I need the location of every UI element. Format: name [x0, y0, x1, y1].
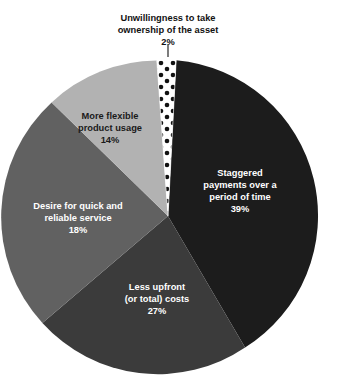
slice-label-line2: (or total) costs [125, 294, 190, 304]
slice-label-line1: More flexible [82, 111, 139, 121]
slice-label-line2: product usage [78, 123, 142, 133]
slice-label-line1: Desire for quick and [33, 201, 123, 211]
pie-chart-svg: Unwillingness to take ownership of the a… [0, 0, 337, 387]
slice-label-value: 14% [101, 135, 120, 145]
callout-label-unwillingness: Unwillingness to take ownership of the a… [118, 13, 219, 47]
slice-label-value: 27% [148, 306, 167, 316]
slice-label-line2: payments over a [203, 180, 277, 190]
slice-label-line1: Staggered [217, 168, 263, 178]
callout-label-value: 2% [161, 37, 175, 47]
callout-label-line1: Unwillingness to take [120, 13, 215, 23]
pie-chart: Unwillingness to take ownership of the a… [0, 0, 337, 387]
slice-label-value: 39% [231, 204, 250, 214]
slice-label-value: 18% [69, 225, 88, 235]
slice-label-line2: reliable service [44, 213, 111, 223]
slice-label-line1: Less upfront [129, 282, 185, 292]
callout-label-line2: ownership of the asset [118, 25, 219, 35]
slice-label-line3: period of time [209, 192, 270, 202]
